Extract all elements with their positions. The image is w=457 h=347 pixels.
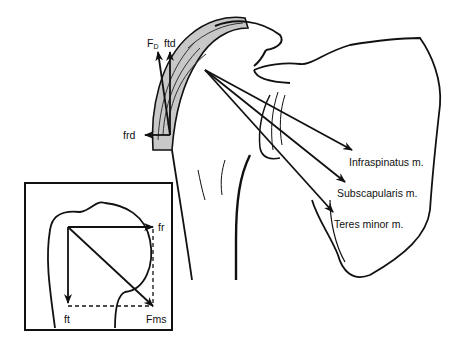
label-subscapularis: Subscapularis m. bbox=[337, 188, 418, 199]
inset-panel bbox=[25, 183, 172, 330]
humerus bbox=[172, 150, 250, 280]
label-teres-minor: Teres minor m. bbox=[334, 219, 403, 230]
subscapularis-arrow bbox=[205, 70, 345, 182]
label-ft: ft bbox=[64, 314, 70, 325]
label-ftd: ftd bbox=[164, 38, 176, 49]
fd-subscript: D bbox=[153, 43, 158, 50]
label-fd: FD bbox=[147, 38, 158, 50]
label-fr: fr bbox=[158, 222, 164, 233]
label-frd: frd bbox=[123, 130, 135, 141]
teres-minor-arrow bbox=[205, 70, 333, 212]
label-fms: Fms bbox=[146, 314, 166, 325]
shoulder-diagram bbox=[0, 0, 457, 347]
label-infraspinatus: Infraspinatus m. bbox=[349, 157, 424, 168]
